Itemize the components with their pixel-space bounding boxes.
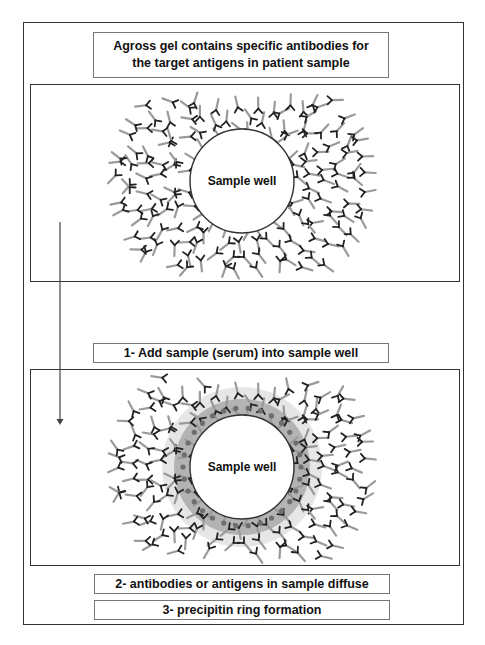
antibody-icon xyxy=(135,101,151,109)
antibody-icon xyxy=(140,403,156,411)
antibody-icon xyxy=(339,394,355,402)
antibody-icon xyxy=(211,99,219,115)
antigen-dot xyxy=(246,406,251,411)
antibody-icon xyxy=(304,169,320,177)
gel-diagram-before: Sample well xyxy=(31,85,460,282)
antibody-icon xyxy=(348,415,364,423)
antigen-dot xyxy=(293,440,298,445)
antibody-icon xyxy=(152,128,168,136)
antibody-icon xyxy=(352,137,368,145)
antibody-icon xyxy=(331,123,344,137)
antibody-icon xyxy=(269,102,277,118)
antibody-icon xyxy=(171,241,179,257)
antigen-dot xyxy=(269,413,274,418)
antibody-icon xyxy=(339,114,355,123)
antibody-icon xyxy=(286,94,294,110)
antibody-icon xyxy=(346,463,362,473)
antibody-icon xyxy=(360,168,376,176)
title-box: Agross gel contains specific antibodies … xyxy=(93,32,389,78)
antibody-icon xyxy=(220,237,235,250)
antigen-dot xyxy=(287,499,292,504)
antibody-icon xyxy=(358,493,373,505)
antibody-icon xyxy=(141,204,157,212)
antibody-icon xyxy=(297,262,313,270)
antigen-dot xyxy=(221,521,226,526)
antibody-icon xyxy=(123,517,139,525)
antibody-icon xyxy=(309,519,325,527)
antigen-dot xyxy=(298,464,303,469)
antibody-icon xyxy=(143,431,159,439)
antibody-icon xyxy=(327,540,343,548)
antibody-icon xyxy=(137,191,153,199)
antibody-icon xyxy=(136,173,152,184)
antibody-icon xyxy=(125,155,137,170)
antigen-dot xyxy=(258,408,263,413)
antibody-icon xyxy=(139,442,154,455)
antibody-icon xyxy=(309,233,325,241)
antibody-icon xyxy=(300,101,308,117)
gel-diagram-after: Sample well xyxy=(31,370,460,566)
antibody-icon xyxy=(303,193,315,208)
antibody-icon xyxy=(350,507,366,515)
antigen-dot xyxy=(258,521,263,526)
antibody-icon xyxy=(327,207,343,215)
antibody-icon xyxy=(276,257,284,273)
antigen-dot xyxy=(287,430,292,435)
antibody-icon xyxy=(181,116,197,124)
antibody-icon xyxy=(108,462,124,472)
antibody-icon xyxy=(323,239,339,247)
antigen-dot xyxy=(200,508,205,513)
antigen-dot xyxy=(233,406,238,411)
antibody-icon xyxy=(126,492,142,500)
gel-panel-before: Sample well xyxy=(30,84,460,282)
antibody-icon xyxy=(345,228,359,242)
antibody-icon xyxy=(342,136,351,152)
antigen-dot xyxy=(246,523,251,528)
antibody-icon xyxy=(162,98,178,107)
sample-well-label: Sample well xyxy=(208,460,277,474)
antibody-icon xyxy=(180,132,196,140)
step-1-label: 1- Add sample (serum) into sample well xyxy=(124,346,358,360)
antigen-dot xyxy=(297,477,302,482)
antibody-icon xyxy=(189,93,198,109)
antibody-icon xyxy=(250,262,262,277)
antibody-icon xyxy=(276,543,284,559)
antigen-dot xyxy=(279,421,284,426)
antibody-icon xyxy=(332,181,348,192)
antibody-icon xyxy=(132,213,147,225)
antibody-icon xyxy=(120,130,136,140)
antibody-icon xyxy=(157,224,168,239)
antigen-dot xyxy=(221,408,226,413)
antibody-icon xyxy=(327,96,342,104)
antigen-dot xyxy=(279,508,284,513)
antibody-icon xyxy=(331,510,345,523)
step-3-box: 3- precipitin ring formation xyxy=(94,600,390,620)
antibody-icon xyxy=(131,246,146,254)
antibody-icon xyxy=(138,159,153,167)
antigen-dot xyxy=(182,452,187,457)
antibody-icon xyxy=(299,246,315,254)
antigen-dot xyxy=(192,430,197,435)
antibody-icon xyxy=(318,259,333,271)
antibody-icon xyxy=(122,460,138,468)
antigen-dot xyxy=(233,523,238,528)
antigen-dot xyxy=(269,515,274,520)
antibody-icon xyxy=(158,203,173,215)
antibody-icon xyxy=(165,159,180,170)
antibody-icon xyxy=(123,473,139,481)
antibody-icon xyxy=(150,169,166,177)
antibody-icon xyxy=(129,401,140,417)
antibody-icon xyxy=(151,194,166,205)
antibody-icon xyxy=(299,532,315,540)
antibody-icon xyxy=(222,110,230,126)
antibody-icon xyxy=(303,382,319,391)
antibody-icon xyxy=(193,237,202,253)
antibody-icon xyxy=(253,248,266,263)
antibody-icon xyxy=(191,127,206,139)
antibody-icon xyxy=(135,537,150,545)
antibody-icon xyxy=(167,223,183,231)
antibody-icon xyxy=(315,193,331,202)
antibody-icon xyxy=(358,153,374,161)
antibody-icon xyxy=(153,529,168,541)
title-line-1: Agross gel contains specific antibodies … xyxy=(113,38,369,55)
